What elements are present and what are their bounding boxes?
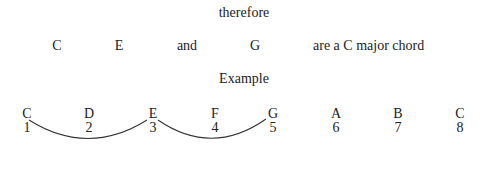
scale-degree: 6 bbox=[333, 120, 340, 136]
scale-degree: 8 bbox=[457, 120, 464, 136]
scale-degree: 3 bbox=[150, 120, 157, 136]
statement-note-g: G bbox=[250, 38, 260, 54]
statement-note-e: E bbox=[115, 38, 124, 54]
scale-degree: 1 bbox=[24, 120, 31, 136]
scale-degree: 5 bbox=[270, 120, 277, 136]
scale-degree: 4 bbox=[212, 120, 219, 136]
heading-therefore: therefore bbox=[219, 5, 270, 21]
example-label: Example bbox=[219, 71, 269, 87]
scale-degree: 7 bbox=[395, 120, 402, 136]
interval-arcs bbox=[0, 0, 483, 180]
statement-conclusion: are a C major chord bbox=[313, 38, 424, 54]
statement-note-c: C bbox=[52, 38, 61, 54]
scale-degree: 2 bbox=[86, 120, 93, 136]
statement-conjunction: and bbox=[177, 38, 197, 54]
